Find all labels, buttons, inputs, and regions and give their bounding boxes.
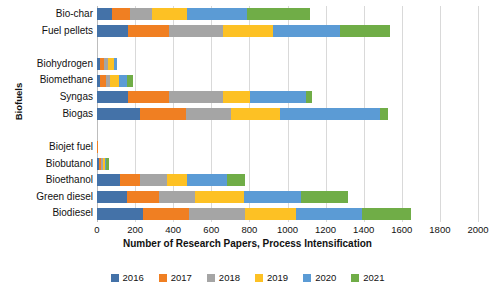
bar-segment-2018[interactable] — [169, 91, 222, 103]
bar-row: Bio-char — [97, 6, 478, 23]
bar-segment-2020[interactable] — [114, 58, 117, 70]
bar-segment-2021[interactable] — [362, 208, 412, 220]
x-tick-label: 0 — [94, 224, 99, 235]
bar-segment-2019[interactable] — [195, 191, 244, 203]
bar-segment-2017[interactable] — [128, 25, 169, 37]
bar-segment-2016[interactable] — [97, 8, 112, 20]
bar-row — [97, 122, 478, 139]
category-label: Biogas — [62, 106, 93, 123]
bar-row: Green diesel — [97, 189, 478, 206]
stacked-bar[interactable] — [97, 174, 245, 186]
stacked-bar[interactable] — [97, 191, 348, 203]
legend-item-2021[interactable]: 2021 — [351, 272, 384, 283]
stacked-bar[interactable] — [97, 141, 98, 153]
bar-segment-2017[interactable] — [143, 208, 190, 220]
bar-segment-2018[interactable] — [189, 208, 244, 220]
bar-segment-2016[interactable] — [97, 208, 143, 220]
bar-segment-2019[interactable] — [223, 25, 273, 37]
bar-segment-2018[interactable] — [130, 8, 152, 20]
bar-segment-2020[interactable] — [119, 75, 128, 87]
bar-segment-2016[interactable] — [97, 91, 128, 103]
x-tick-label: 200 — [127, 224, 143, 235]
bar-segment-2021[interactable] — [106, 158, 109, 170]
bar-segment-2016[interactable] — [97, 108, 140, 120]
category-label: Biojet fuel — [49, 139, 93, 156]
stacked-bar-chart: Biofuels Bio-charFuel pelletsBiohydrogen… — [0, 0, 495, 304]
bar-segment-2021[interactable] — [227, 174, 244, 186]
stacked-bar[interactable] — [97, 108, 388, 120]
category-label: Biohydrogen — [37, 56, 93, 73]
legend-swatch-icon — [303, 274, 311, 282]
legend-label: 2019 — [267, 272, 288, 283]
bar-row: Bioethanol — [97, 172, 478, 189]
bar-row: Biogas — [97, 106, 478, 123]
x-tick-label: 800 — [241, 224, 257, 235]
legend-swatch-icon — [207, 274, 215, 282]
bar-segment-2016[interactable] — [97, 174, 120, 186]
bar-segment-2021[interactable] — [127, 75, 133, 87]
stacked-bar[interactable] — [97, 25, 390, 37]
bar-segment-2020[interactable] — [296, 208, 362, 220]
bar-row: Biodiesel — [97, 205, 478, 222]
bar-segment-2019[interactable] — [223, 91, 251, 103]
bar-segment-2018[interactable] — [169, 25, 222, 37]
x-tick-label: 1200 — [315, 224, 336, 235]
bar-row: Biohydrogen — [97, 56, 478, 73]
bar-segment-2020[interactable] — [187, 174, 228, 186]
x-tick-label: 2000 — [467, 224, 488, 235]
bar-segment-2018[interactable] — [140, 174, 167, 186]
legend-item-2019[interactable]: 2019 — [255, 272, 288, 283]
x-tick-label: 1400 — [353, 224, 374, 235]
category-label: Fuel pellets — [42, 23, 93, 40]
bar-segment-2020[interactable] — [280, 108, 380, 120]
bar-segment-2018[interactable] — [186, 108, 232, 120]
bar-segment-2019[interactable] — [245, 208, 296, 220]
stacked-bar[interactable] — [97, 75, 133, 87]
legend-label: 2021 — [363, 272, 384, 283]
stacked-bar[interactable] — [97, 91, 312, 103]
legend-item-2016[interactable]: 2016 — [111, 272, 144, 283]
category-label: Bio-char — [56, 6, 93, 23]
bar-segment-2017[interactable] — [112, 8, 130, 20]
bar-segment-2019[interactable] — [110, 75, 119, 87]
category-label: Biobutanol — [46, 156, 93, 173]
bar-segment-2017[interactable] — [128, 91, 169, 103]
legend-item-2018[interactable]: 2018 — [207, 272, 240, 283]
category-label: Biomethane — [40, 72, 93, 89]
bar-segment-2016[interactable] — [97, 191, 127, 203]
bar-segment-2021[interactable] — [247, 8, 311, 20]
bar-row: Biojet fuel — [97, 139, 478, 156]
stacked-bar[interactable] — [97, 8, 310, 20]
bar-segment-2017[interactable] — [140, 108, 186, 120]
bar-segment-2019[interactable] — [231, 108, 280, 120]
bar-segment-2018[interactable] — [159, 191, 195, 203]
bar-segment-2021[interactable] — [380, 108, 389, 120]
chart-legend: 201620172018201920202021 — [0, 272, 495, 283]
stacked-bar[interactable] — [97, 158, 109, 170]
stacked-bar[interactable] — [97, 58, 117, 70]
bar-segment-2017[interactable] — [97, 141, 98, 153]
y-axis-title: Biofuels — [13, 62, 24, 142]
bar-segment-2020[interactable] — [250, 91, 305, 103]
bar-segment-2021[interactable] — [306, 91, 313, 103]
bar-segment-2017[interactable] — [127, 191, 158, 203]
bar-segment-2020[interactable] — [273, 25, 340, 37]
bar-segment-2020[interactable] — [187, 8, 247, 20]
bar-segment-2020[interactable] — [244, 191, 301, 203]
legend-item-2017[interactable]: 2017 — [159, 272, 192, 283]
bar-segment-2019[interactable] — [152, 8, 186, 20]
bar-segment-2021[interactable] — [301, 191, 349, 203]
x-tick-label: 600 — [203, 224, 219, 235]
bar-segment-2016[interactable] — [97, 25, 128, 37]
bar-segment-2019[interactable] — [167, 174, 187, 186]
bar-segment-2021[interactable] — [340, 25, 390, 37]
legend-label: 2017 — [171, 272, 192, 283]
legend-swatch-icon — [255, 274, 263, 282]
bar-row — [97, 39, 478, 56]
legend-item-2020[interactable]: 2020 — [303, 272, 336, 283]
x-axis-title: Number of Research Papers, Process Inten… — [0, 238, 495, 249]
legend-swatch-icon — [351, 274, 359, 282]
x-tick-label: 1800 — [429, 224, 450, 235]
bar-segment-2017[interactable] — [120, 174, 140, 186]
stacked-bar[interactable] — [97, 208, 411, 220]
